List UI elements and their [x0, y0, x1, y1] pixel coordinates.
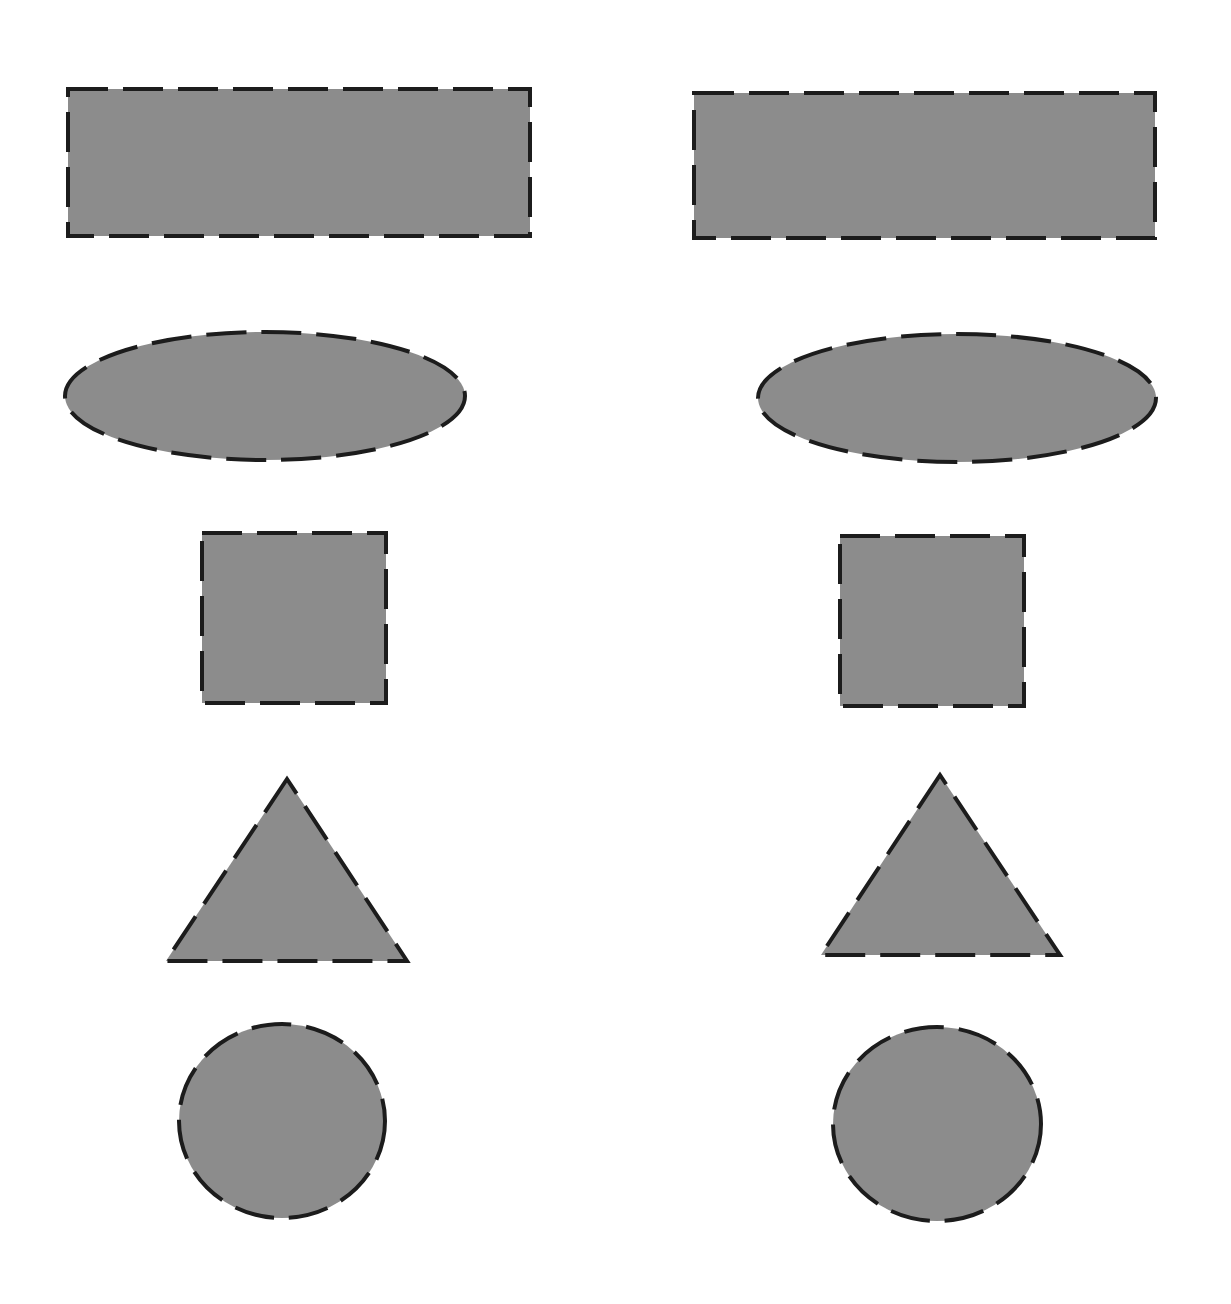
left-ellipse [65, 332, 465, 460]
left-column [65, 89, 530, 1218]
right-column [694, 93, 1156, 1221]
left-circle [179, 1024, 385, 1218]
shapes-canvas [0, 0, 1231, 1304]
right-circle [833, 1027, 1041, 1221]
right-ellipse [758, 334, 1156, 462]
left-rectangle [68, 89, 530, 236]
left-triangle [166, 779, 407, 961]
right-triangle [821, 775, 1060, 955]
right-rectangle [694, 93, 1155, 238]
right-square [840, 536, 1024, 706]
left-square [202, 533, 386, 703]
